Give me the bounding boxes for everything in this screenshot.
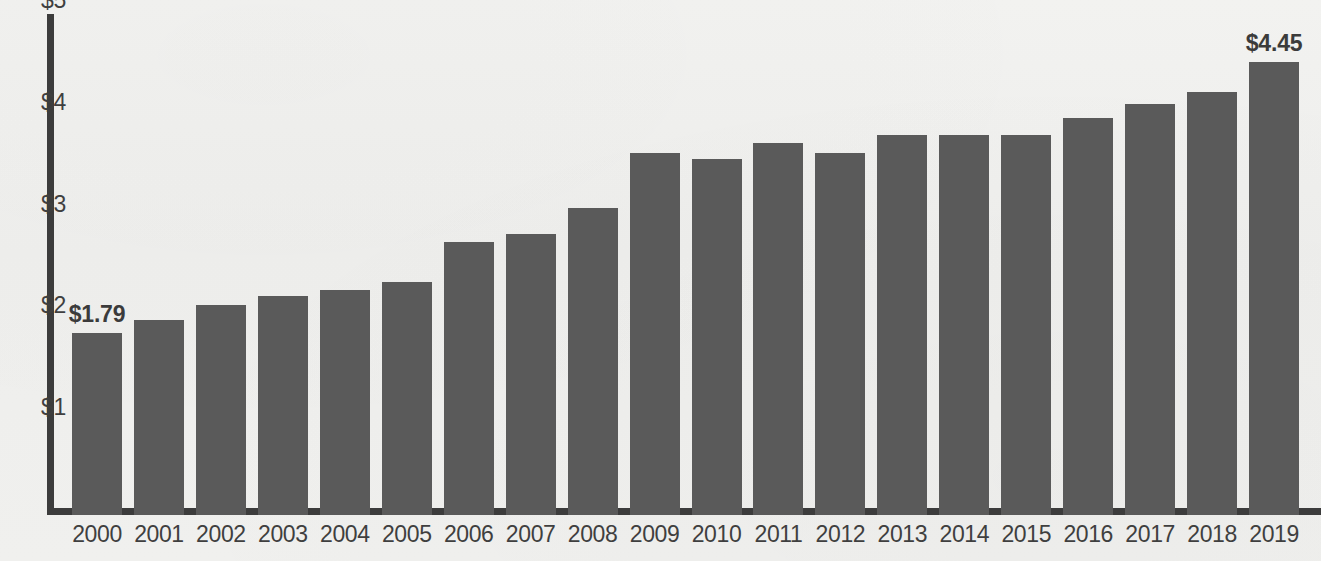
bar-2015[interactable] bbox=[1001, 135, 1051, 515]
bar-group-2004[interactable] bbox=[320, 290, 370, 515]
bar-group-2011[interactable] bbox=[753, 143, 803, 515]
x-axis-tick-2009: 2009 bbox=[624, 521, 686, 548]
bar-group-2000[interactable]: $1.79 bbox=[72, 333, 122, 515]
bar-2010[interactable] bbox=[692, 159, 742, 515]
bar-group-2006[interactable] bbox=[444, 242, 494, 515]
bar-2019[interactable] bbox=[1249, 62, 1299, 515]
bar-value-label-2019: $4.45 bbox=[1246, 30, 1303, 57]
chart-page: $1$2$3$4$5 $1.79$4.45 200020012002200320… bbox=[0, 0, 1321, 561]
bar-chart-plot-area: $1$2$3$4$5 $1.79$4.45 200020012002200320… bbox=[0, 0, 1321, 561]
x-axis-tick-2015: 2015 bbox=[995, 521, 1057, 548]
x-axis-tick-2016: 2016 bbox=[1057, 521, 1119, 548]
bar-2001[interactable] bbox=[134, 320, 184, 515]
bars-layer: $1.79$4.45 bbox=[0, 0, 1321, 561]
x-axis-tick-2002: 2002 bbox=[190, 521, 252, 548]
bar-group-2018[interactable] bbox=[1187, 92, 1237, 515]
bar-group-2001[interactable] bbox=[134, 320, 184, 515]
bar-2008[interactable] bbox=[568, 208, 618, 515]
bar-2003[interactable] bbox=[258, 296, 308, 515]
bar-2011[interactable] bbox=[753, 143, 803, 515]
bar-2012[interactable] bbox=[815, 153, 865, 515]
bar-group-2013[interactable] bbox=[877, 135, 927, 515]
bar-2016[interactable] bbox=[1063, 118, 1113, 515]
bar-group-2016[interactable] bbox=[1063, 118, 1113, 515]
bar-2004[interactable] bbox=[320, 290, 370, 515]
bar-group-2019[interactable]: $4.45 bbox=[1249, 62, 1299, 515]
bar-group-2005[interactable] bbox=[382, 282, 432, 515]
bar-2006[interactable] bbox=[444, 242, 494, 515]
bar-group-2007[interactable] bbox=[506, 234, 556, 515]
x-axis-tick-2013: 2013 bbox=[871, 521, 933, 548]
bar-value-label-2000: $1.79 bbox=[69, 301, 126, 328]
bar-2007[interactable] bbox=[506, 234, 556, 515]
bar-2018[interactable] bbox=[1187, 92, 1237, 515]
bar-2005[interactable] bbox=[382, 282, 432, 515]
x-axis-tick-2003: 2003 bbox=[252, 521, 314, 548]
x-axis-tick-2010: 2010 bbox=[686, 521, 748, 548]
x-axis-tick-2007: 2007 bbox=[500, 521, 562, 548]
bar-group-2002[interactable] bbox=[196, 305, 246, 515]
x-axis-tick-2017: 2017 bbox=[1119, 521, 1181, 548]
bar-group-2014[interactable] bbox=[939, 135, 989, 515]
bar-2017[interactable] bbox=[1125, 104, 1175, 515]
x-axis-tick-2004: 2004 bbox=[314, 521, 376, 548]
x-axis-tick-2018: 2018 bbox=[1181, 521, 1243, 548]
x-axis-tick-2006: 2006 bbox=[438, 521, 500, 548]
bar-2002[interactable] bbox=[196, 305, 246, 515]
x-axis-tick-2019: 2019 bbox=[1243, 521, 1305, 548]
x-axis-tick-2012: 2012 bbox=[809, 521, 871, 548]
x-axis-tick-2008: 2008 bbox=[562, 521, 624, 548]
x-axis-tick-2001: 2001 bbox=[128, 521, 190, 548]
bar-2000[interactable] bbox=[72, 333, 122, 515]
bar-2009[interactable] bbox=[630, 153, 680, 515]
bar-2013[interactable] bbox=[877, 135, 927, 515]
bar-group-2012[interactable] bbox=[815, 153, 865, 515]
bar-group-2015[interactable] bbox=[1001, 135, 1051, 515]
bar-group-2010[interactable] bbox=[692, 159, 742, 515]
bar-group-2003[interactable] bbox=[258, 296, 308, 515]
x-axis-tick-2014: 2014 bbox=[933, 521, 995, 548]
bar-group-2009[interactable] bbox=[630, 153, 680, 515]
x-axis-tick-2000: 2000 bbox=[66, 521, 128, 548]
x-axis-tick-2011: 2011 bbox=[747, 521, 809, 548]
bar-2014[interactable] bbox=[939, 135, 989, 515]
bar-group-2017[interactable] bbox=[1125, 104, 1175, 515]
x-axis-tick-2005: 2005 bbox=[376, 521, 438, 548]
bar-group-2008[interactable] bbox=[568, 208, 618, 515]
